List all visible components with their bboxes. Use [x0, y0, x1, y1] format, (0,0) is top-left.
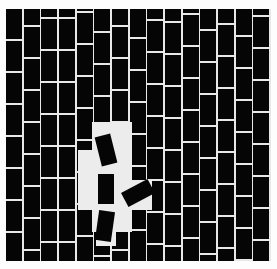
brick	[147, 245, 163, 261]
brick	[41, 51, 57, 81]
brick	[41, 19, 57, 49]
brick	[59, 19, 75, 49]
brick	[41, 147, 57, 177]
brick	[165, 151, 181, 181]
brick	[112, 251, 128, 261]
brick	[24, 251, 40, 261]
brick	[236, 229, 252, 259]
brick	[218, 25, 234, 55]
brick-wall	[6, 9, 271, 261]
brick	[218, 89, 234, 119]
brick	[200, 63, 216, 93]
brick-wall-illustration	[0, 0, 277, 269]
brick-column	[218, 9, 234, 261]
brick	[112, 27, 128, 57]
brick	[94, 257, 110, 261]
brick	[165, 247, 181, 261]
brick	[147, 9, 163, 19]
brick-column	[59, 9, 75, 261]
brick	[218, 185, 234, 215]
brick	[218, 9, 234, 23]
brick	[77, 77, 93, 107]
brick	[218, 153, 234, 183]
brick	[41, 243, 57, 261]
brick	[112, 59, 128, 89]
brick	[59, 179, 75, 209]
brick	[183, 239, 199, 261]
brick	[236, 37, 252, 67]
brick	[165, 183, 181, 213]
brick	[24, 9, 40, 25]
brick	[94, 65, 110, 95]
brick	[253, 241, 269, 261]
brick	[6, 105, 22, 135]
brick	[200, 191, 216, 221]
brick-column	[183, 9, 199, 261]
brick	[253, 177, 269, 207]
brick	[112, 91, 128, 121]
brick	[147, 117, 163, 147]
brick-column	[41, 9, 57, 261]
brick	[165, 215, 181, 245]
brick	[59, 83, 75, 113]
brick	[253, 49, 269, 79]
brick	[41, 83, 57, 113]
brick	[183, 143, 199, 173]
brick	[147, 53, 163, 83]
brick-column	[165, 9, 181, 261]
brick	[6, 137, 22, 167]
brick	[94, 33, 110, 63]
brick	[130, 9, 146, 37]
brick	[253, 17, 269, 47]
brick	[130, 103, 146, 133]
brick	[77, 237, 93, 261]
brick	[59, 9, 75, 17]
brick	[130, 135, 146, 165]
brick	[183, 207, 199, 237]
brick	[112, 9, 128, 25]
brick-column	[236, 9, 252, 261]
brick	[253, 9, 269, 15]
brick	[77, 13, 93, 43]
brick	[165, 119, 181, 149]
brick	[253, 209, 269, 239]
brick	[218, 121, 234, 151]
brick	[59, 115, 75, 145]
brick	[236, 101, 252, 131]
brick	[6, 73, 22, 103]
brick	[147, 21, 163, 51]
brick	[77, 109, 93, 139]
brick-column	[24, 9, 40, 261]
brick	[236, 133, 252, 163]
brick	[165, 55, 181, 85]
brick	[24, 91, 40, 121]
brick	[183, 175, 199, 205]
brick	[77, 9, 93, 11]
brick-column	[253, 9, 269, 261]
brick-column	[147, 9, 163, 261]
brick	[147, 85, 163, 115]
brick	[183, 79, 199, 109]
brick-column	[130, 9, 146, 261]
brick	[218, 57, 234, 87]
brick	[6, 233, 22, 261]
brick	[183, 9, 199, 13]
brick	[59, 211, 75, 241]
brick	[147, 213, 163, 243]
brick	[41, 115, 57, 145]
brick	[130, 39, 146, 69]
brick-column	[6, 9, 22, 261]
brick	[147, 149, 163, 179]
brick	[6, 169, 22, 199]
brick	[24, 187, 40, 217]
brick	[253, 81, 269, 111]
brick	[24, 155, 40, 185]
brick	[253, 113, 269, 143]
brick	[77, 45, 93, 75]
brick	[236, 9, 252, 35]
brick	[24, 219, 40, 249]
brick	[200, 9, 216, 29]
brick-column	[200, 9, 216, 261]
brick	[6, 41, 22, 71]
loose-brick	[98, 174, 114, 204]
